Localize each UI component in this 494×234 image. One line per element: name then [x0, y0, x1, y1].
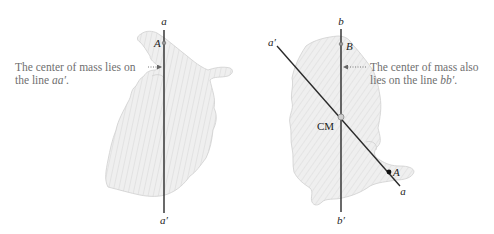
- label-a-top: a: [161, 15, 167, 27]
- label-point-a: A: [153, 37, 161, 49]
- point-b-marker: [339, 42, 343, 46]
- left-annotation-line2: the line aa′.: [15, 74, 69, 86]
- left-object-shape: [106, 31, 233, 196]
- center-of-mass-marker: [338, 114, 344, 120]
- label-point-a-right: A: [392, 166, 400, 178]
- left-annotation-line1: The center of mass lies on: [15, 61, 136, 73]
- label-cm: CM: [317, 120, 334, 132]
- point-a-marker: [162, 41, 166, 45]
- label-b-top: b: [338, 15, 344, 27]
- label-a-prime-top: a′: [268, 36, 277, 48]
- point-a-marker-right: [387, 170, 392, 175]
- right-panel: b b′ a′ a B CM A The center of mass also…: [268, 15, 479, 226]
- label-a-bottom: a: [400, 185, 406, 197]
- center-of-mass-diagram: a a′ A The center of mass lies on the li…: [0, 0, 494, 234]
- label-point-b: B: [346, 40, 353, 52]
- right-annotation-line2: lies on the line bb′.: [370, 74, 457, 86]
- left-panel: a a′ A The center of mass lies on the li…: [15, 15, 232, 226]
- right-annotation-line1: The center of mass also: [370, 61, 479, 73]
- label-b-prime-bottom: b′: [337, 214, 346, 226]
- label-a-prime-bottom: a′: [160, 214, 169, 226]
